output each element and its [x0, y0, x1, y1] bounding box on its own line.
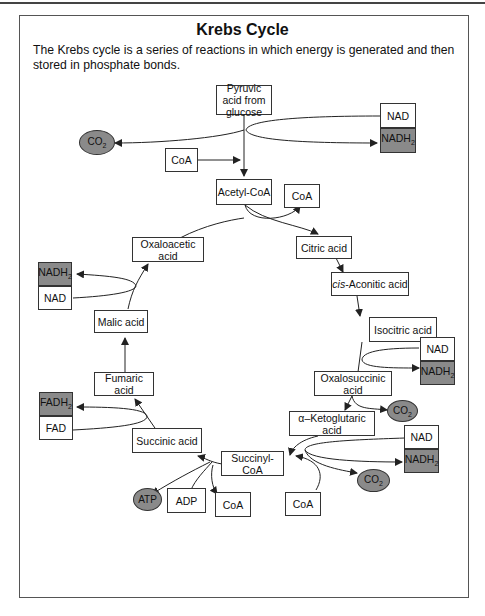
node-label: CoA: [293, 498, 313, 510]
node-label: Succinyl-CoA: [222, 452, 283, 476]
node-pyruvic-acid: Pyruvic acid from glucose: [216, 85, 272, 115]
cofactor-coa-in: CoA: [165, 148, 198, 172]
cofactor-nad-top: NAD: [380, 103, 416, 128]
cofactor-coa-ketoglutaric: CoA: [285, 492, 321, 516]
cofactor-nadh2-isocitric: NADH2: [420, 361, 455, 385]
cofactor-nad-isocitric: NAD: [420, 337, 455, 361]
node-label: α–Ketoglutaric acid: [290, 412, 374, 436]
cofactor-nad-malic: NAD: [38, 286, 72, 310]
node-alpha-ketoglutaric-acid: α–Ketoglutaric acid: [289, 411, 375, 436]
node-label: Fumaric acid: [95, 372, 153, 396]
node-label: NAD: [44, 292, 66, 304]
node-label: Pyruvic acid from glucose: [217, 82, 271, 118]
node-label: Succinic acid: [136, 435, 197, 447]
node-label: Oxalosuccinic acid: [315, 372, 391, 396]
node-malic-acid: Malic acid: [94, 310, 148, 333]
node-label: NAD: [410, 431, 432, 443]
node-label: ADP: [176, 495, 198, 507]
cofactor-adp: ADP: [167, 488, 206, 513]
node-label: CO2: [393, 405, 412, 418]
product-atp: ATP: [133, 488, 162, 511]
cofactor-coa-out: CoA: [284, 184, 320, 208]
node-cis-aconitic-acid: cis-Aconitic acid: [331, 272, 409, 296]
node-label: Citric acid: [301, 242, 347, 254]
node-label: CoA: [292, 190, 312, 202]
node-label: FADH2: [40, 396, 72, 413]
cofactor-nad-ketoglutaric: NAD: [404, 425, 439, 449]
node-oxaloacetic-acid: Oxaloacetic acid: [132, 237, 204, 262]
node-label: Malic acid: [98, 316, 145, 328]
node-citric-acid: Citric acid: [296, 236, 352, 259]
product-co2-oxalosuccinic: CO2: [387, 400, 418, 422]
node-label: CoA: [223, 499, 243, 511]
node-succinic-acid: Succinic acid: [132, 428, 202, 453]
node-label: Isocitric acid: [374, 324, 432, 336]
product-co2-ketoglutaric: CO2: [357, 469, 390, 492]
node-label: FAD: [46, 422, 66, 434]
cofactor-fadh2: FADH2: [39, 392, 73, 416]
node-label: NAD: [387, 110, 409, 122]
node-fumaric-acid: Fumaric acid: [94, 372, 154, 396]
node-label: NADH2: [405, 453, 439, 470]
cofactor-nadh2-malic: NADH2: [38, 262, 72, 286]
node-label: CoA: [171, 154, 191, 166]
node-label: CO2: [364, 474, 383, 487]
cofactor-fad: FAD: [39, 416, 73, 440]
node-oxalosuccinic-acid: Oxalosuccinic acid: [314, 371, 392, 396]
node-label: NAD: [426, 343, 448, 355]
node-label: NADH2: [421, 365, 455, 382]
node-label: cis-Aconitic acid: [332, 278, 407, 290]
node-succinyl-coa: Succinyl-CoA: [221, 451, 284, 476]
node-label: NADH2: [38, 266, 72, 283]
cofactor-nadh2-top: NADH2: [380, 128, 416, 153]
cofactor-coa-succinyl: CoA: [215, 492, 251, 517]
node-label: NADH2: [381, 132, 415, 149]
node-acetyl-coa: Acetyl-CoA: [216, 179, 272, 205]
node-label: ATP: [138, 494, 157, 505]
node-label: CO2: [88, 136, 107, 149]
product-co2-top: CO2: [79, 130, 115, 155]
node-label: Oxaloacetic acid: [133, 238, 203, 262]
cofactor-nadh2-ketoglutaric: NADH2: [404, 449, 439, 473]
node-label: Acetyl-CoA: [218, 186, 271, 198]
